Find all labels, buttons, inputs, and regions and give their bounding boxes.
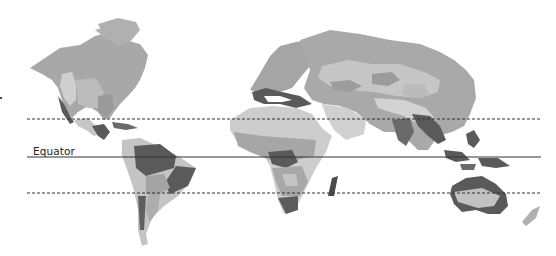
australia <box>450 176 508 214</box>
africa <box>230 106 332 214</box>
world-climate-map <box>0 0 556 256</box>
southeast-asia-islands <box>444 130 510 170</box>
south-america <box>122 138 196 246</box>
marker-dot <box>0 97 2 99</box>
new-zealand <box>522 206 540 226</box>
equator-label: Equator <box>33 145 75 157</box>
